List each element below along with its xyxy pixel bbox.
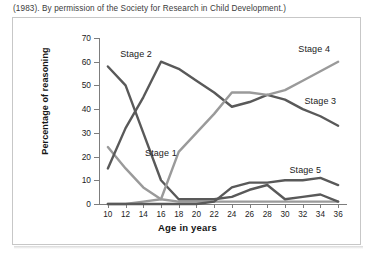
x-tick-label: 14 (135, 210, 151, 219)
series-label-stage-4: Stage 4 (298, 44, 330, 54)
x-tick-label: 34 (312, 210, 328, 219)
figure-root: (1983). By permission of the Society for… (0, 0, 375, 264)
x-tick-label: 26 (242, 210, 258, 219)
x-axis-title: Age in years (13, 222, 362, 233)
x-tick-label: 36 (330, 210, 346, 219)
x-tick-label: 18 (171, 210, 187, 219)
x-tick-label: 20 (188, 210, 204, 219)
x-tick-label: 30 (277, 210, 293, 219)
series-label-stage-2: Stage 2 (120, 49, 152, 59)
x-tick-label: 28 (259, 210, 275, 219)
x-tick (338, 204, 339, 208)
y-tick-label: 50 (69, 82, 91, 89)
x-tick-label: 24 (224, 210, 240, 219)
y-tick-label: 70 (69, 35, 91, 42)
x-tick-label: 12 (118, 210, 134, 219)
series-label-stage-5: Stage 5 (289, 165, 321, 175)
series-label-stage-3: Stage 3 (304, 96, 336, 106)
series-line (108, 62, 338, 169)
data-lines (99, 38, 347, 204)
y-tick-label: 0 (69, 201, 91, 208)
y-axis-title: Percentage of reasoning (40, 41, 50, 161)
y-tick-label: 10 (69, 177, 91, 184)
series-line (108, 178, 338, 204)
x-tick-label: 16 (153, 210, 169, 219)
x-tick (250, 204, 251, 208)
y-tick-label: 30 (69, 130, 91, 137)
y-tick-label: 40 (69, 106, 91, 113)
x-tick (214, 204, 215, 208)
plot-area: 010203040506070 101214161820222426283032… (99, 38, 347, 204)
series-label-stage-1: Stage 1 (145, 148, 177, 158)
x-tick-label: 10 (100, 210, 116, 219)
x-tick-label: 32 (295, 210, 311, 219)
y-tick-label: 60 (69, 59, 91, 66)
panel-shadow (14, 246, 363, 249)
x-tick-label: 22 (206, 210, 222, 219)
x-tick (285, 204, 286, 208)
x-tick (232, 204, 233, 208)
figure-caption: (1983). By permission of the Society for… (13, 3, 343, 14)
chart-panel: Percentage of reasoning Age in years 010… (12, 17, 361, 245)
x-tick (303, 204, 304, 208)
y-tick (94, 204, 99, 205)
y-tick-label: 20 (69, 154, 91, 161)
x-tick (320, 204, 321, 208)
x-tick (267, 204, 268, 208)
